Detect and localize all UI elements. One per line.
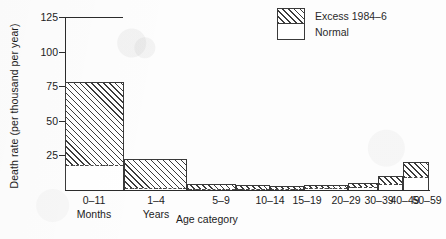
bar-series-group <box>65 17 429 190</box>
bar-15-19 <box>270 186 304 190</box>
x-label-range: 1–4 <box>147 194 165 206</box>
bar-excess-segment <box>237 186 269 190</box>
chart-legend: Excess 1984–6 Normal <box>277 8 427 40</box>
bar-excess-segment <box>404 163 428 178</box>
bar-20-29 <box>304 185 348 190</box>
bar-excess-segment <box>125 160 186 189</box>
legend-label-excess: Excess 1984–6 <box>315 10 387 22</box>
x-axis-line <box>65 190 430 191</box>
bar-40-49 <box>378 176 403 190</box>
bar-excess-segment <box>349 184 377 188</box>
legend-label-normal: Normal <box>315 26 349 38</box>
bar-excess-segment <box>188 185 235 190</box>
bar-excess-segment <box>305 186 347 189</box>
bar-excess-segment <box>271 187 303 190</box>
y-tick-50: 50 <box>24 116 58 127</box>
bar-1-4-years <box>124 159 187 190</box>
y-tick-25: 25 <box>24 150 58 161</box>
bar-excess-segment <box>66 83 123 166</box>
bar-5-9 <box>187 184 236 190</box>
y-tick-125: 125 <box>24 12 58 23</box>
legend-swatch-white-icon <box>277 24 305 40</box>
bar-10-14 <box>236 185 270 190</box>
bar-excess-segment <box>379 177 402 185</box>
x-label-unit: Months <box>64 209 124 220</box>
legend-item-normal: Normal <box>277 24 427 40</box>
x-axis-title: Age category <box>176 213 238 225</box>
bar-30-39 <box>348 183 378 190</box>
y-axis-title: Death rate (per thousand per year) <box>8 13 20 199</box>
y-tick-100: 100 <box>24 47 58 58</box>
y-tick-75: 75 <box>24 81 58 92</box>
x-label-range: 0–11 <box>83 194 106 206</box>
x-label-50-59: 50–59 <box>401 195 446 206</box>
legend-item-excess: Excess 1984–6 <box>277 8 427 24</box>
x-label-0-11-months: 0–11 Months <box>64 195 124 220</box>
bar-0-11-months <box>65 82 124 190</box>
bar-50-59 <box>403 162 429 190</box>
legend-swatch-hatched-icon <box>277 8 305 24</box>
